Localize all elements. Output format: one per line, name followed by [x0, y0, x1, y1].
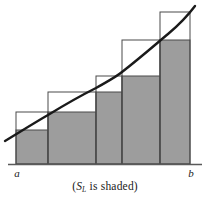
- caption-subscript: L: [82, 185, 86, 194]
- shaded-bar-3: [96, 92, 122, 164]
- caption-suffix: is shaded): [86, 180, 137, 192]
- figure-caption: (SL is shaded): [0, 180, 210, 192]
- axis-label-b: b: [188, 167, 194, 179]
- riemann-sum-svg: a b: [0, 0, 210, 210]
- shaded-left-endpoint-rectangles: [16, 40, 190, 164]
- shaded-bar-4: [122, 76, 160, 164]
- shaded-bar-5: [160, 40, 190, 164]
- riemann-sum-figure: a b (SL is shaded): [0, 0, 210, 210]
- axis-label-a: a: [14, 167, 20, 179]
- shaded-bar-1: [16, 130, 48, 164]
- shaded-bar-2: [48, 112, 96, 164]
